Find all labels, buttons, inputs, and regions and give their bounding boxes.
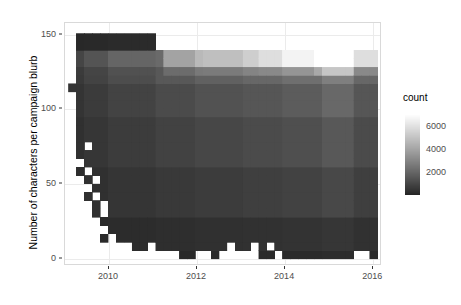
legend-title: count xyxy=(403,92,427,103)
x-tick-mark xyxy=(284,266,285,269)
x-tick-label: 2014 xyxy=(262,272,306,281)
x-tick-label: 2016 xyxy=(350,272,394,281)
legend-tick-label: 2000 xyxy=(426,167,446,176)
legend-tick-label: 4000 xyxy=(426,144,446,153)
legend: count 200040006000 xyxy=(400,92,461,204)
legend-tick-mark xyxy=(420,125,423,126)
x-tick-mark xyxy=(372,266,373,269)
x-tick-mark xyxy=(196,266,197,269)
legend-colorbar xyxy=(405,114,420,195)
legend-tick-mark xyxy=(420,148,423,149)
x-tick-mark xyxy=(108,266,109,269)
plot-panel xyxy=(64,22,381,265)
heatmap-cells xyxy=(65,23,381,265)
legend-tick-label: 6000 xyxy=(426,121,446,130)
x-tick-label: 2010 xyxy=(86,272,130,281)
legend-tick-mark xyxy=(420,171,423,172)
x-tick-label: 2012 xyxy=(174,272,218,281)
heatmap-chart: Number of characters per campaign blurb … xyxy=(0,0,461,305)
